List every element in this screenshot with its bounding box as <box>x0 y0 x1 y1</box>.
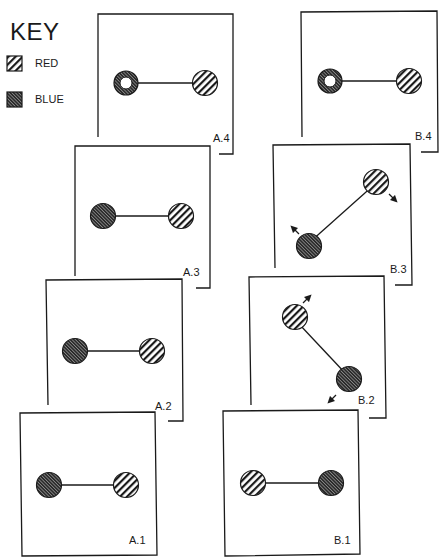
red-atom-icon <box>114 473 139 498</box>
panel-a4-molecule <box>114 71 218 96</box>
panel-label-b4: B.4 <box>415 130 432 142</box>
motion-arrow-icon <box>293 228 299 234</box>
blue-atom-icon <box>37 473 62 498</box>
motion-arrow-icon <box>303 297 309 303</box>
red-atom-icon <box>193 71 218 96</box>
panel-label-b2: B.2 <box>358 394 375 406</box>
red-atom-icon <box>169 204 194 229</box>
panel-b4-molecule <box>318 69 422 94</box>
panel-label-b3: B.3 <box>390 263 407 275</box>
panel-a3-molecule <box>91 204 194 229</box>
key-title: KEY <box>10 18 60 46</box>
key-label-red: RED <box>35 57 58 69</box>
blue-atom-icon <box>63 339 88 364</box>
panel-label-a1: A.1 <box>129 534 146 546</box>
diagram-canvas <box>0 0 443 558</box>
blue-atom-icon <box>91 204 116 229</box>
red-atom-icon <box>283 305 308 330</box>
motion-arrow-icon <box>389 194 395 200</box>
blue-atom-icon <box>319 471 344 496</box>
panel-label-a3: A.3 <box>183 266 200 278</box>
key-label-blue: BLUE <box>35 93 64 105</box>
red-atom-icon <box>397 69 422 94</box>
panel-label-b1: B.1 <box>334 534 351 546</box>
key-red-swatch-icon <box>7 56 22 71</box>
panel-b2-molecule <box>283 297 362 401</box>
blue-atom-icon <box>337 367 362 392</box>
panel-label-a2: A.2 <box>155 400 172 412</box>
red-atom-icon <box>364 170 389 195</box>
panel-a1-molecule <box>37 473 139 498</box>
blue-atom-icon <box>297 234 322 259</box>
red-atom-icon <box>140 339 165 364</box>
motion-arrow-icon <box>330 395 336 401</box>
key-blue-swatch-icon <box>7 92 22 107</box>
red-atom-icon <box>241 471 266 496</box>
panel-label-a4: A.4 <box>213 132 230 144</box>
panel-a2-molecule <box>63 339 165 364</box>
panel-b1-molecule <box>241 471 344 496</box>
panel-b3-molecule <box>293 170 395 259</box>
diagram-stage: KEY RED BLUE A.4 A.3 A.2 A.1 B.4 B.3 B.2… <box>0 0 443 558</box>
